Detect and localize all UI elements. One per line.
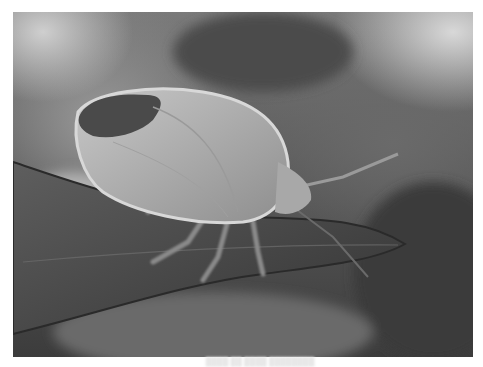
photo-caption: ████ ██ ████ ████████: [110, 357, 410, 367]
photo-illustration: [13, 12, 473, 357]
insect-photo: [13, 12, 473, 357]
